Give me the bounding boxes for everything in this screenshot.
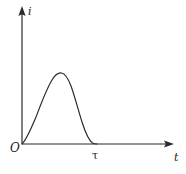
x-axis-tick-label-tau: τ	[92, 150, 98, 161]
origin-label: O	[10, 142, 20, 154]
y-axis-label: i	[28, 6, 32, 17]
current-pulse-curve	[22, 73, 97, 144]
x-axis-label: t	[174, 152, 178, 163]
current-vs-time-figure: i t O τ	[0, 0, 186, 174]
plot-canvas	[0, 0, 186, 174]
